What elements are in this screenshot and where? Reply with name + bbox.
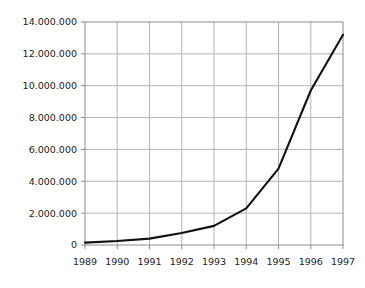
y-axis-tick-label: 8.000.000 — [29, 112, 77, 123]
x-axis-tick-label: 1992 — [170, 256, 194, 267]
x-axis-tick-label: 1997 — [331, 256, 355, 267]
y-axis-tick-label: 2.000.000 — [29, 208, 77, 219]
chart-canvas: 02.000.0004.000.0006.000.0008.000.00010.… — [0, 0, 365, 288]
y-axis-tick-label: 10.000.000 — [23, 80, 77, 91]
x-axis-tick-label: 1995 — [266, 256, 290, 267]
y-axis-tick-label: 14.000.000 — [23, 16, 77, 27]
y-axis-tick-label: 12.000.000 — [23, 48, 77, 59]
line-chart: 02.000.0004.000.0006.000.0008.000.00010.… — [0, 0, 365, 288]
x-axis-tick-label: 1989 — [73, 256, 97, 267]
x-axis-tick-label: 1996 — [299, 256, 323, 267]
x-axis-tick-marks — [85, 245, 343, 249]
y-axis-tick-label: 0 — [71, 239, 77, 250]
x-axis-tick-label: 1993 — [202, 256, 226, 267]
y-axis-tick-label: 4.000.000 — [29, 176, 77, 187]
x-axis-tick-labels: 198919901991199219931994199519961997 — [73, 256, 355, 267]
x-axis-tick-label: 1994 — [234, 256, 258, 267]
y-axis-tick-labels: 02.000.0004.000.0006.000.0008.000.00010.… — [23, 16, 77, 250]
y-axis-tick-label: 6.000.000 — [29, 144, 77, 155]
y-axis-tick-marks — [81, 22, 85, 245]
x-axis-tick-label: 1990 — [105, 256, 129, 267]
x-axis-tick-label: 1991 — [137, 256, 161, 267]
